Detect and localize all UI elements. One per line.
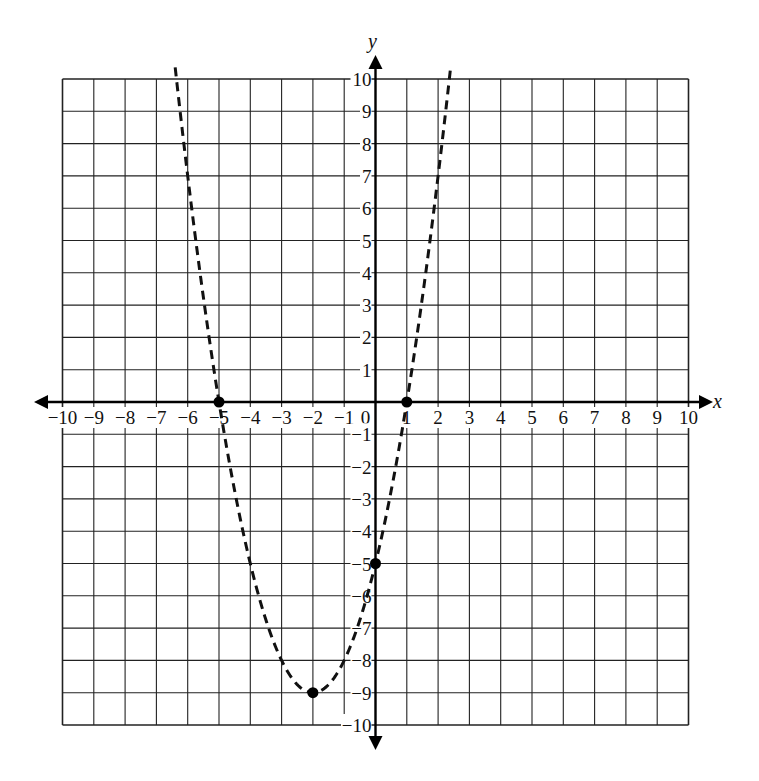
x-tick-label: 8 (621, 407, 631, 428)
y-tick-label: −5 (351, 554, 371, 575)
y-axis-down-arrow-icon (369, 736, 383, 750)
x-axis-right-arrow-icon (699, 395, 713, 409)
y-tick-label: −9 (351, 683, 371, 704)
y-tick-label: 2 (362, 327, 372, 348)
x-tick-label: 4 (496, 407, 506, 428)
vertex-point (307, 687, 318, 698)
x-tick-label: 2 (433, 407, 443, 428)
y-tick-label: 4 (362, 263, 372, 284)
axes (34, 55, 713, 750)
x-axis-left-arrow-icon (34, 395, 48, 409)
x-tick-label: −2 (303, 407, 323, 428)
x-tick-label: −9 (84, 407, 104, 428)
y-intercept-point (370, 558, 381, 569)
x-intercept-point (214, 397, 225, 408)
y-tick-label: 9 (362, 101, 372, 122)
x-tick-label: −4 (240, 407, 261, 428)
x-tick-label: 6 (559, 407, 569, 428)
x-tick-label: 3 (465, 407, 475, 428)
x-axis-label: x (712, 390, 722, 412)
y-tick-label: 6 (362, 198, 372, 219)
x-tick-label: −3 (271, 407, 291, 428)
x-tick-label: −10 (48, 407, 78, 428)
y-axis-label: y (366, 30, 377, 53)
y-tick-label: −3 (351, 489, 371, 510)
coordinate-plane: −10−9−8−7−6−5−4−3−2−1012345678910−10−9−8… (0, 0, 759, 781)
y-tick-label: −4 (351, 521, 372, 542)
x-tick-label: 7 (590, 407, 600, 428)
y-tick-label: 8 (362, 134, 372, 155)
x-tick-label: −7 (146, 407, 166, 428)
x-tick-label: −6 (178, 407, 198, 428)
y-tick-label: 7 (362, 166, 372, 187)
x-tick-label: 9 (652, 407, 662, 428)
y-tick-label: −8 (351, 650, 371, 671)
y-tick-label: 3 (362, 295, 372, 316)
y-tick-label: 5 (362, 231, 372, 252)
x-tick-label: 10 (679, 407, 698, 428)
y-axis-up-arrow-icon (369, 55, 383, 69)
y-tick-label: 10 (353, 69, 372, 90)
x-intercept-point (401, 397, 412, 408)
y-tick-label: −10 (342, 715, 372, 736)
x-tick-label: 5 (527, 407, 537, 428)
y-tick-label: −1 (351, 424, 371, 445)
y-tick-label: −2 (351, 457, 371, 478)
x-tick-label: −8 (115, 407, 135, 428)
y-tick-label: 1 (362, 360, 372, 381)
